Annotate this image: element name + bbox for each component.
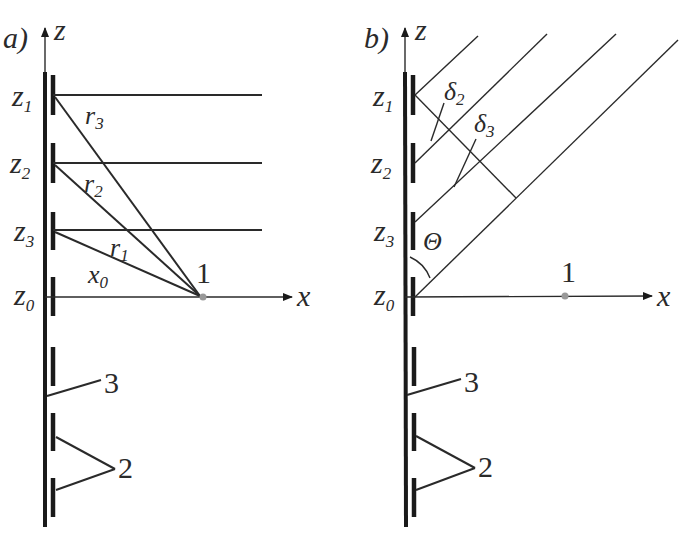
svg-text:x0: x0 [87,260,109,292]
point-1 [562,293,569,300]
svg-text:z3: z3 [13,214,34,251]
r3-label: r3 [85,101,104,133]
svg-text:δ2: δ2 [444,77,465,109]
x-axis-label: x [296,279,311,312]
z1-label: z1 [11,79,32,116]
line-r3 [55,97,200,296]
diagram-canvas: a) z z1 z2 z3 z0 [0,0,683,533]
panel-a: a) z z1 z2 z3 z0 [3,13,311,527]
svg-text:r2: r2 [84,169,103,201]
point-1-label: 1 [196,256,211,289]
svg-text:z2: z2 [9,146,31,183]
theta-label: Θ [423,227,442,256]
r1-label: r1 [110,233,129,265]
callout-3-label: 3 [464,365,479,398]
callout-3-label: 3 [104,366,119,399]
z2-label: z2 [370,146,392,183]
oblique-ray-z3 [415,34,616,222]
z-axis-label: z [53,13,66,46]
z3-label: z3 [373,214,394,251]
callout-2-label: 2 [118,451,133,484]
x-axis-label: x [656,279,671,312]
delta2-label: δ2 [444,77,465,109]
panel-b: b) z z1 z2 z3 z0 δ2 [364,13,678,527]
z-axis-label: z [414,13,427,46]
z0-label: z0 [373,278,395,315]
callout-2-label: 2 [478,450,493,483]
wavefront-perpendicular [415,95,516,198]
z0-label: z0 [13,278,35,315]
svg-text:z3: z3 [373,214,394,251]
callout-2-line-upper [416,436,475,468]
svg-text:z0: z0 [13,278,35,315]
callout-2-line-lower [416,468,475,490]
z2-label: z2 [9,146,31,183]
svg-text:z0: z0 [373,278,395,315]
x-axis-arrow [405,296,652,297]
panel-b-label: b) [364,21,389,55]
point-1-label: 1 [561,255,576,288]
delta3-label: δ3 [474,109,495,141]
svg-text:z2: z2 [370,146,392,183]
svg-text:δ3: δ3 [474,109,495,141]
x0-label: x0 [87,260,109,292]
screen-wall [405,72,406,527]
callout-2-line-lower [56,469,115,490]
r2-label: r2 [84,169,103,201]
svg-text:z1: z1 [372,79,393,116]
theta-arc [410,257,430,278]
panel-a-label: a) [3,21,28,55]
z3-label: z3 [13,214,34,251]
svg-text:r3: r3 [85,101,104,133]
svg-text:z1: z1 [11,79,32,116]
svg-text:r1: r1 [110,233,129,265]
z1-label: z1 [372,79,393,116]
point-1 [200,294,207,301]
callout-2-line-upper [56,437,115,469]
oblique-ray-z2 [415,34,547,163]
